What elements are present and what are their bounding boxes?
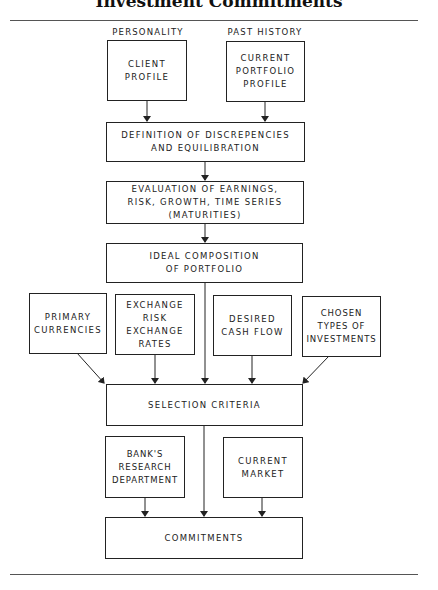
node-definition-of-discrepencies: DEFINITION OF DISCREPENCIES AND EQUILIBR…	[106, 122, 305, 162]
node-commitments: COMMITMENTS	[105, 517, 303, 559]
node-desired-cash-flow: DESIRED CASH FLOW	[213, 295, 292, 356]
node-selection-criteria: SELECTION CRITERIA	[106, 384, 303, 426]
node-current-market: CURRENT MARKET	[223, 437, 303, 498]
node-chosen-types: CHOSEN TYPES OF INVESTMENTS	[302, 296, 381, 357]
node-current-portfolio-profile: CURRENT PORTFOLIO PROFILE	[226, 41, 305, 102]
node-ideal-composition: IDEAL COMPOSITION OF PORTFOLIO	[106, 243, 303, 283]
bottom-rule	[10, 574, 418, 575]
node-primary-currencies: PRIMARY CURRENCIES	[29, 293, 107, 354]
node-evaluation: EVALUATION OF EARNINGS, RISK, GROWTH, TI…	[106, 181, 304, 224]
node-banks-research: BANK'S RESEARCH DEPARTMENT	[105, 436, 185, 498]
node-exchange-risk: EXCHANGE RISK EXCHANGE RATES	[115, 294, 195, 355]
node-client-profile: CLIENT PROFILE	[107, 40, 187, 101]
